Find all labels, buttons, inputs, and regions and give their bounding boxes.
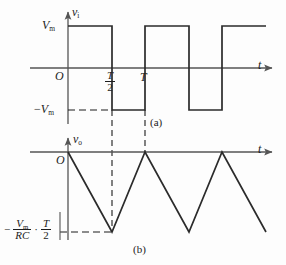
- panel-a-y-axis-label: vi: [72, 6, 79, 18]
- panel-b-caption: (b): [133, 244, 146, 255]
- panel-b-x-axis-label: t: [258, 143, 261, 155]
- panel-a-caption: (a): [150, 117, 162, 128]
- panel-a-half-period-tick-label: T 2: [105, 70, 115, 93]
- panel-a-period-tick-label: T: [140, 71, 147, 83]
- waveform-figure: vi t O Vm −Vm T 2 T (a) vo t O − Vm RC ·…: [0, 0, 286, 265]
- panel-a-positive-vm-label: Vm: [42, 19, 55, 31]
- panel-a-x-axis-label: t: [258, 59, 261, 71]
- panel-a-origin-label: O: [55, 70, 64, 82]
- panel-b-triangular-wave-trace: [68, 152, 266, 232]
- panel-b-peak-value-label: − Vm RC · T 2: [4, 218, 51, 241]
- panel-b-y-axis-label: vo: [73, 133, 82, 145]
- panel-b-origin-label: O: [56, 154, 65, 166]
- panel-a-negative-vm-label: −Vm: [34, 103, 54, 115]
